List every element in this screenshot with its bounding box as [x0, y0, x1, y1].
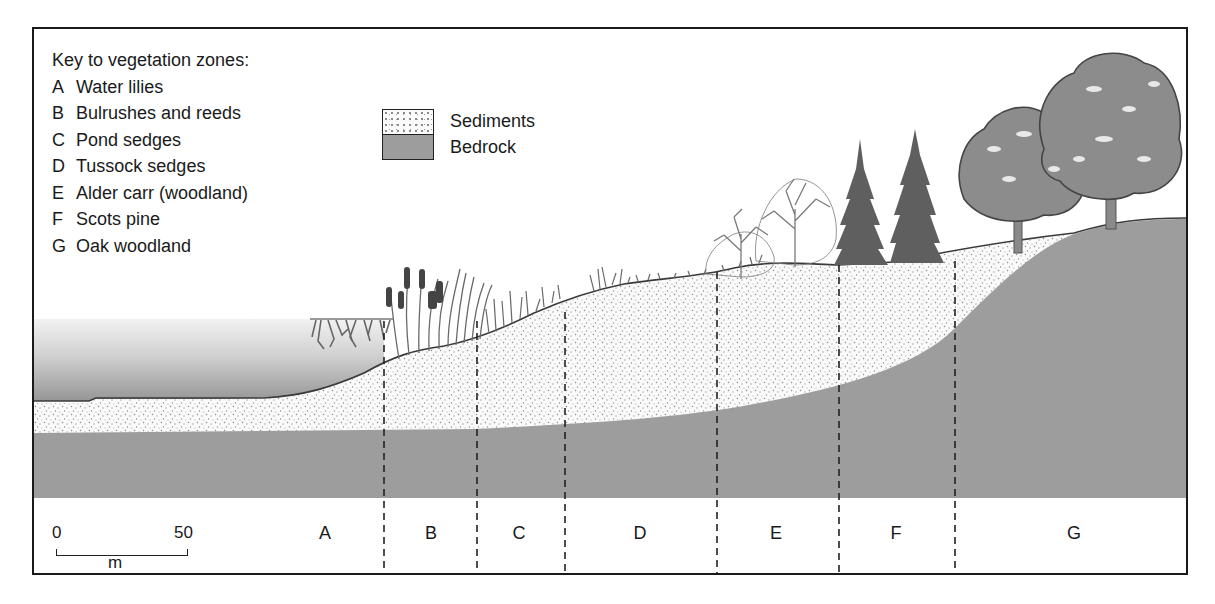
zone-label-c: C — [513, 523, 526, 544]
key-item-e: EAlder carr (woodland) — [52, 180, 249, 207]
key-item-g: GOak woodland — [52, 233, 249, 260]
scots-pine-trees — [834, 129, 944, 265]
scale-start: 0 — [52, 523, 61, 543]
zone-label-f: F — [891, 523, 902, 544]
zone-label-d: D — [634, 523, 647, 544]
diagram-frame: Key to vegetation zones: AWater lilies B… — [32, 27, 1188, 575]
zone-label-b: B — [425, 523, 437, 544]
key-item-d: DTussock sedges — [52, 153, 249, 180]
scale-unit: m — [108, 553, 122, 573]
zone-label-a: A — [319, 523, 331, 544]
vegetation-key: Key to vegetation zones: AWater lilies B… — [52, 47, 249, 259]
key-item-b: BBulrushes and reeds — [52, 100, 249, 127]
key-title: Key to vegetation zones: — [52, 47, 249, 74]
sediments-swatch — [382, 109, 434, 135]
key-item-a: AWater lilies — [52, 74, 249, 101]
zone-label-g: G — [1067, 523, 1081, 544]
bedrock-swatch — [382, 134, 434, 160]
key-item-c: CPond sedges — [52, 127, 249, 154]
key-item-f: FScots pine — [52, 206, 249, 233]
zone-label-e: E — [770, 523, 782, 544]
scale-end: 50 — [174, 523, 193, 543]
